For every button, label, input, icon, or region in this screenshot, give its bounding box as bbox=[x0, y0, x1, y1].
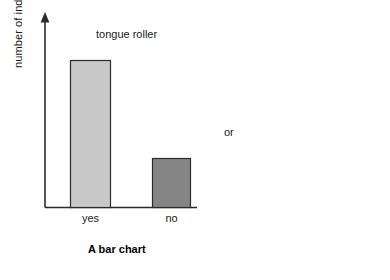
bar-no bbox=[153, 159, 191, 208]
pie-chart-graphic bbox=[205, 0, 390, 280]
bar-chart-caption: A bar chart bbox=[88, 243, 146, 255]
x-tick-label-yes: yes bbox=[70, 212, 111, 224]
bar-yes bbox=[71, 61, 111, 208]
bar-chart-heading: tongue roller bbox=[96, 28, 157, 40]
pie-chart: yes no A pie chart bbox=[205, 0, 390, 280]
bar-chart-graphic bbox=[0, 0, 205, 280]
x-tick-label-no: no bbox=[152, 212, 191, 224]
bar-chart: number of individuals tongue roller yes … bbox=[0, 0, 205, 280]
y-axis bbox=[41, 12, 50, 208]
y-axis-label: number of individuals bbox=[12, 0, 24, 68]
figure-canvas: number of individuals tongue roller yes … bbox=[0, 0, 390, 280]
